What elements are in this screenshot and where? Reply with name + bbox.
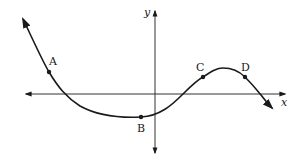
y-axis-label: y: [143, 6, 151, 19]
point-b-label: B: [137, 122, 145, 135]
point-b-marker: [139, 115, 143, 119]
graph-svg: A B C D x y: [0, 0, 299, 161]
point-d-label: D: [241, 61, 250, 74]
x-axis-label: x: [281, 96, 288, 109]
function-curve: [23, 19, 272, 117]
point-c-marker: [201, 75, 205, 79]
point-a-marker: [47, 70, 51, 74]
function-graph-diagram: A B C D x y: [0, 0, 299, 161]
point-c-label: C: [196, 61, 204, 74]
point-a-label: A: [48, 55, 58, 68]
point-d-marker: [243, 75, 247, 79]
